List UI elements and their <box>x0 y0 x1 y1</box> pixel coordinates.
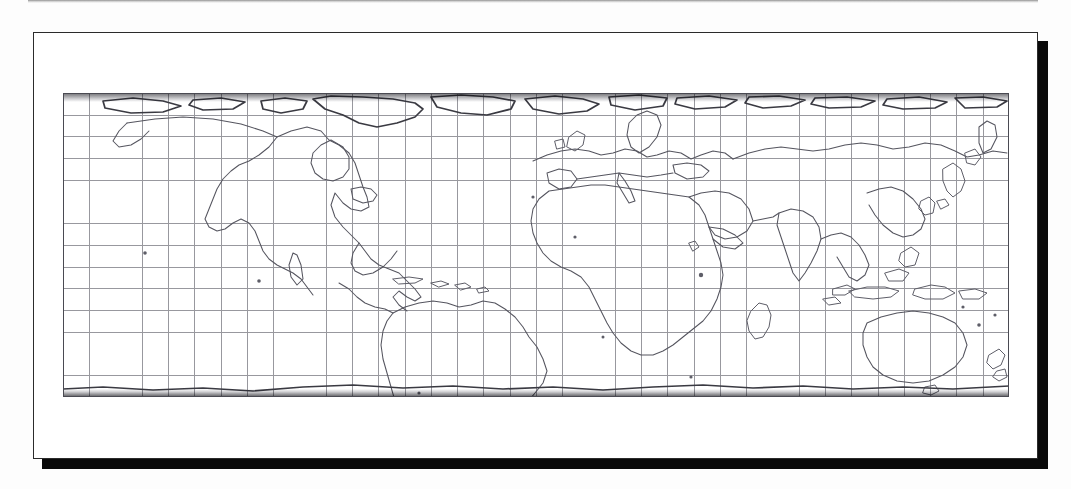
scan-edge-artifact <box>28 0 1038 3</box>
graticule-grid <box>63 93 1009 397</box>
world-map-figure-frame <box>33 32 1038 459</box>
world-map-plot[interactable] <box>63 93 1009 397</box>
scanned-page <box>0 0 1071 489</box>
